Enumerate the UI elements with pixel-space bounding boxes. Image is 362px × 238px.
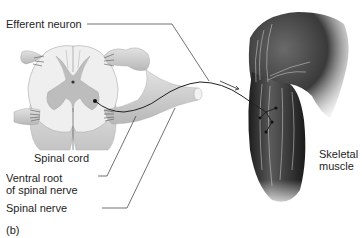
- label-ventral-root-line2: of spinal nerve: [6, 184, 78, 197]
- label-spinal-cord: Spinal cord: [34, 152, 89, 165]
- diagram-stage: Efferent neuron Spinal cord Ventral root…: [0, 0, 362, 238]
- spinal-cord-illustration: [14, 46, 202, 150]
- neuron-cell-body: [93, 99, 97, 103]
- panel-label: (b): [6, 224, 19, 237]
- label-spinal-nerve: Spinal nerve: [6, 202, 67, 215]
- label-efferent-neuron: Efferent neuron: [6, 18, 82, 31]
- label-skeletal-muscle-line2: muscle: [319, 160, 354, 173]
- skeletal-muscle-illustration: [246, 12, 349, 210]
